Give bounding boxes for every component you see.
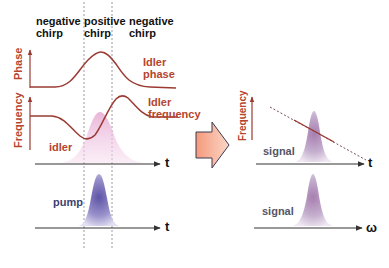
pump-pulse-label: pump	[53, 196, 83, 208]
idler-phase-label: Idler phase	[143, 56, 175, 80]
right-time-axis-label: t	[368, 156, 372, 170]
region-label-negative-chirp-right: negative chirp	[129, 15, 174, 39]
frequency-axis-label: Frequency	[12, 92, 24, 148]
diagram-canvas	[0, 0, 389, 268]
idler-phase-label-line2: phase	[143, 68, 175, 80]
signal-time-label: signal	[263, 145, 295, 157]
signal-time-pulse	[294, 111, 334, 162]
idler-frequency-label-line1: Idler	[148, 96, 201, 108]
region-label-line2: chirp	[36, 27, 81, 39]
idler-pulse	[60, 112, 145, 163]
phase-axis-label: Phase	[12, 48, 24, 80]
signal-spectrum-pulse	[292, 174, 334, 226]
idler-phase-label-line1: Idler	[143, 56, 175, 68]
time-axis-2-label: t	[165, 220, 169, 234]
region-label-line1: positive	[84, 15, 126, 27]
region-label-positive-chirp: positive chirp	[84, 15, 126, 39]
idler-frequency-label-line2: frequency	[148, 108, 201, 120]
idler-pulse-label: idler	[49, 141, 72, 153]
right-frequency-axis-label: Frequency	[237, 90, 248, 141]
region-label-line1: negative	[129, 15, 174, 27]
region-label-line1: negative	[36, 15, 81, 27]
idler-frequency-label: Idler frequency	[148, 96, 201, 120]
time-axis-1-label: t	[165, 156, 169, 170]
region-label-line2: chirp	[84, 27, 126, 39]
region-label-negative-chirp-left: negative chirp	[36, 15, 81, 39]
region-label-line2: chirp	[129, 27, 174, 39]
transform-arrow-icon	[196, 122, 229, 168]
signal-spectrum-label: signal	[262, 205, 294, 217]
right-omega-axis-label: ω	[366, 221, 377, 235]
